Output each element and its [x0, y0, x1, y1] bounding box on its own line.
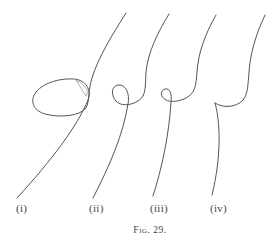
curve-iv [212, 15, 265, 195]
curve-i [17, 13, 126, 198]
label-iii: (iii) [150, 202, 168, 214]
figure-caption: Fig. 29. [0, 225, 274, 235]
curve-ii-path [93, 14, 169, 198]
curve-i-lower-branch [17, 100, 88, 198]
curve-i-inner-loop [76, 80, 87, 96]
curve-iv-upper-branch [215, 15, 265, 106]
curve-iii-path [153, 15, 216, 196]
curve-iv-lower-branch [212, 103, 219, 195]
label-iv: (iv) [210, 202, 227, 214]
curve-iii [153, 15, 216, 196]
curve-ii [93, 14, 169, 198]
figure-29 [0, 0, 274, 248]
label-i: (i) [16, 202, 27, 214]
label-ii: (ii) [89, 202, 104, 214]
curve-i-upper-branch [33, 13, 126, 116]
